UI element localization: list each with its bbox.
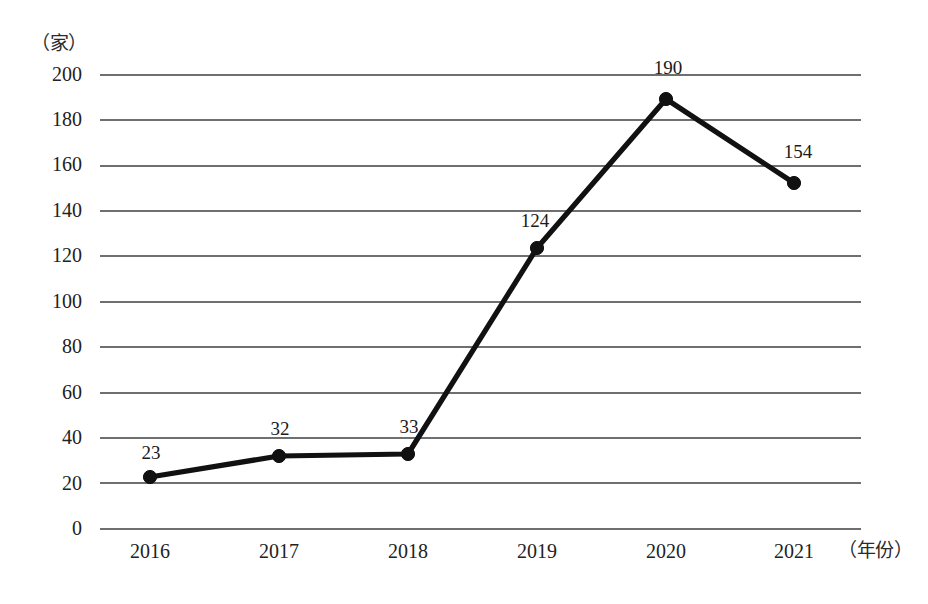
x-tick-label-2017: 2017 [239,541,319,561]
data-point-2016 [143,470,156,483]
plot-area [0,0,928,604]
line-chart: （家） （年份） 200 180 160 140 120 100 80 60 4… [0,0,928,604]
gridlines [100,75,861,529]
data-label-2020: 190 [633,58,703,77]
x-tick-label-2016: 2016 [110,541,190,561]
data-point-2017 [272,449,285,462]
data-series [143,92,800,483]
data-point-2021 [787,176,800,189]
data-point-2019 [530,241,543,254]
x-tick-label-2020: 2020 [626,541,706,561]
data-label-2016: 23 [116,443,186,462]
data-label-2018: 33 [374,417,444,436]
x-tick-label-2018: 2018 [368,541,448,561]
data-point-2020 [659,92,672,105]
x-tick-label-2021: 2021 [754,541,834,561]
data-label-2021: 154 [763,142,833,161]
data-label-2019: 124 [500,211,570,230]
data-label-2017: 32 [245,419,315,438]
x-tick-label-2019: 2019 [497,541,577,561]
data-point-2018 [401,447,414,460]
